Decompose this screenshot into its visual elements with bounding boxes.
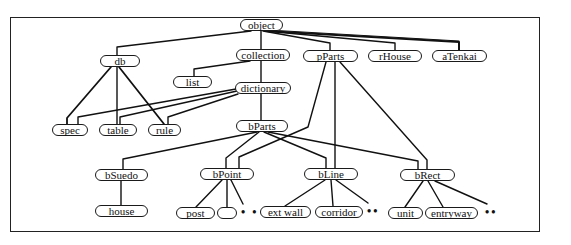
node-house: house (95, 205, 148, 217)
ellipsis-bpoint: • • (241, 206, 258, 218)
node-db: db (100, 55, 140, 67)
edge-dictionary-table (120, 91, 237, 124)
node-bline: bLine (304, 168, 358, 180)
edge-dictionary-spec (78, 89, 236, 124)
node-bsuedo: bSuedo (95, 169, 148, 181)
node-ext-wall: ext wall (260, 206, 311, 218)
edge-bparts-bsuedo (123, 132, 257, 169)
node-rhouse: rHouse (368, 50, 422, 62)
node-bpoint: bPoint (200, 168, 254, 180)
node-entryway: entryway (425, 207, 478, 219)
edge-bline-more (336, 180, 368, 203)
node-atenkai: aTenkai (432, 50, 487, 62)
edge-brect-more (435, 181, 487, 204)
node-corridor: corridor (315, 206, 363, 218)
node-object: object (240, 19, 283, 31)
node-list: list (173, 76, 212, 88)
node-table: table (99, 124, 137, 136)
class-hierarchy-diagram: object db collection pParts rHouse aTenk… (0, 0, 571, 245)
node-rule: rule (148, 124, 181, 136)
edge-bpoint-post (196, 180, 222, 207)
edge-bparts-brect (268, 132, 418, 169)
node-brect: bRect (400, 169, 455, 181)
edge-object-db (117, 31, 251, 55)
node-blank (217, 207, 237, 219)
edge-pparts-brect (340, 62, 427, 169)
edge-brect-unit (405, 181, 423, 207)
edge-bline-corridor (331, 180, 333, 206)
edge-bline-extwall (285, 180, 325, 206)
ellipsis-bline: •• (367, 205, 379, 217)
node-collection: collection (236, 49, 290, 61)
edge-brect-entryway (428, 181, 443, 207)
node-post: post (176, 207, 215, 219)
edge-bpoint-more (231, 180, 243, 204)
ellipsis-brect: •• (485, 206, 497, 218)
node-unit: unit (388, 207, 423, 219)
node-dictionary: dictionary (235, 82, 291, 94)
node-spec: spec (52, 124, 88, 136)
edge-collection-list (194, 61, 250, 76)
node-bparts: bParts (236, 120, 288, 132)
node-pparts: pParts (303, 50, 358, 62)
